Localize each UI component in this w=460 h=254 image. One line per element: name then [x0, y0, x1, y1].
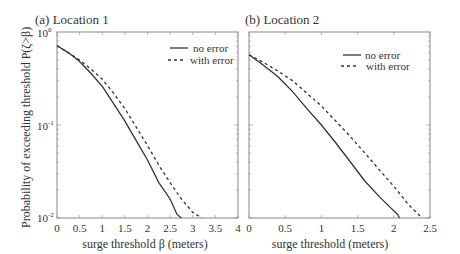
series-with-error — [249, 55, 422, 218]
x-tick-label: 4 — [235, 222, 241, 234]
panel-a-legend: no error with error — [168, 42, 234, 66]
panel-b-title: (b) Location 2 — [245, 12, 319, 27]
y-axis-label: Probability of exceeding threshold P(ζ>β… — [19, 27, 33, 228]
x-tick-label: 3.5 — [209, 222, 223, 234]
x-tick-label: 0.5 — [278, 222, 292, 234]
ytick-top: 100 — [37, 26, 52, 39]
x-tick-label: 0 — [54, 222, 60, 234]
ytick-bot: 10-2 — [37, 211, 54, 224]
x-tick-label: 1.5 — [351, 222, 365, 234]
panel-a-title: (a) Location 1 — [35, 12, 109, 27]
x-tick-labels: 00.511.522.533.5400.511.522.5 — [54, 222, 437, 234]
x-tick-label: 0.5 — [73, 222, 87, 234]
legend-no-error: no error — [193, 42, 228, 54]
legend-with-error: with error — [190, 54, 234, 66]
x-tick-label: 2 — [145, 222, 151, 234]
x-tick-label: 3 — [190, 222, 196, 234]
x-tick-label: 2 — [391, 222, 397, 234]
panel-b-legend: no error with error — [341, 49, 410, 72]
panel-a-x-label: surge threshold β (meters) — [82, 237, 208, 251]
x-tick-label: 2.5 — [163, 222, 177, 234]
series-no-error — [249, 55, 400, 218]
x-tick-label: 0 — [246, 222, 252, 234]
chart-figure: (a) Location 1 (b) Location 2 100 10-1 1… — [0, 0, 460, 254]
series-with-error — [57, 46, 202, 218]
x-tick-label: 1 — [319, 222, 325, 234]
ytick-mid: 10-1 — [37, 119, 54, 132]
series-no-error — [57, 46, 181, 218]
x-tick-label: 2.5 — [423, 222, 437, 234]
legend-with-error: with error — [366, 60, 410, 72]
x-tick-label: 1.5 — [118, 222, 132, 234]
panel-b-x-label: surge threshold (meters) — [272, 237, 388, 251]
x-tick-label: 1 — [100, 222, 106, 234]
